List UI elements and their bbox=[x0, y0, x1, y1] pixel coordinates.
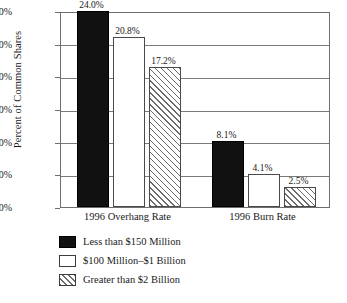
bar bbox=[284, 187, 316, 207]
y-axis-tick-label: 16.0% bbox=[0, 72, 12, 82]
x-axis-category-label: 1996 Burn Rate bbox=[195, 211, 330, 223]
y-axis-title: Percent of Common Shares bbox=[12, 15, 23, 165]
bar-value-label: 17.2% bbox=[140, 56, 188, 66]
bar-value-label: 4.1% bbox=[239, 163, 287, 173]
legend-swatch-icon bbox=[59, 236, 76, 248]
legend-item: Less than $150 Million bbox=[59, 234, 259, 252]
y-axis-tick-label: 0.0% bbox=[0, 203, 12, 213]
bar bbox=[212, 141, 244, 207]
legend-swatch-icon bbox=[59, 255, 76, 267]
bar bbox=[77, 11, 109, 207]
bar-value-label: 8.1% bbox=[203, 130, 251, 140]
bar bbox=[149, 67, 181, 207]
bar-value-label: 20.8% bbox=[104, 26, 152, 36]
y-axis-tick-mark bbox=[55, 208, 60, 209]
legend-label: Less than $150 Million bbox=[83, 235, 181, 249]
y-axis-tick-label: 12.0% bbox=[0, 105, 12, 115]
legend-item: Greater than $2 Billion bbox=[59, 272, 259, 290]
legend-label: Greater than $2 Billion bbox=[83, 273, 180, 287]
bar-chart: Percent of Common Shares 0.0%4.0%8.0%12.… bbox=[0, 0, 347, 228]
y-axis-tick-label: 8.0% bbox=[0, 138, 12, 148]
legend: Less than $150 Million$100 Million–$1 Bi… bbox=[0, 234, 347, 303]
y-axis-tick-label: 20.0% bbox=[0, 40, 12, 50]
y-axis-tick-label: 4.0% bbox=[0, 170, 12, 180]
legend-item: $100 Million–$1 Billion bbox=[59, 253, 259, 271]
bar-value-label: 24.0% bbox=[68, 0, 116, 10]
legend-label: $100 Million–$1 Billion bbox=[83, 254, 186, 268]
y-axis-tick-label: 24.0% bbox=[0, 7, 12, 17]
bar-value-label: 2.5% bbox=[275, 176, 323, 186]
legend-swatch-icon bbox=[59, 274, 76, 286]
x-axis-category-label: 1996 Overhang Rate bbox=[60, 211, 195, 223]
